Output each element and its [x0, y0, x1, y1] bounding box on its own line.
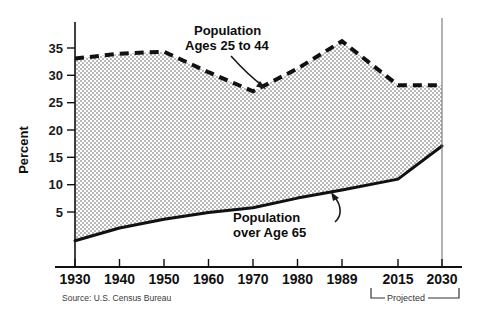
annotation-ages-25-44-line1: Population	[194, 23, 261, 38]
x-tick-label: 1940	[104, 271, 135, 287]
x-tick-label: 1980	[282, 271, 313, 287]
x-tick-label: 1950	[148, 271, 179, 287]
annotation-over-65-line1: Population	[233, 210, 300, 225]
projected-label: Projected	[387, 293, 425, 303]
x-axis-tick-labels: 1930 1940 1950 1960 1970 1980 1989 2015 …	[59, 271, 457, 287]
y-axis-ticks	[67, 48, 75, 212]
annotation-ages-25-44-line2: Ages 25 to 44	[185, 38, 270, 53]
y-tick-label: 30	[49, 68, 63, 83]
y-axis-tick-labels: 35 30 25 20 15 10 5	[49, 41, 63, 220]
x-tick-label: 1989	[326, 271, 357, 287]
x-tick-label: 1970	[237, 271, 268, 287]
x-tick-label: 1930	[59, 271, 90, 287]
population-percent-area-chart: 35 30 25 20 15 10 5 Percent 1930 1940 19…	[0, 0, 477, 317]
annotation-over-65-line2: over Age 65	[233, 225, 306, 240]
y-tick-label: 5	[56, 205, 63, 220]
x-tick-label: 1960	[193, 271, 224, 287]
y-tick-label: 25	[49, 95, 63, 110]
source-note: Source: U.S. Census Bureau	[62, 293, 171, 303]
y-tick-label: 10	[49, 177, 63, 192]
x-tick-label: 2015	[382, 271, 413, 287]
y-axis-title: Percent	[16, 125, 31, 173]
x-tick-label: 2030	[426, 271, 457, 287]
y-tick-label: 35	[49, 41, 63, 56]
chart-figure: 35 30 25 20 15 10 5 Percent 1930 1940 19…	[0, 0, 477, 317]
y-tick-label: 20	[49, 123, 63, 138]
y-tick-label: 15	[49, 150, 63, 165]
